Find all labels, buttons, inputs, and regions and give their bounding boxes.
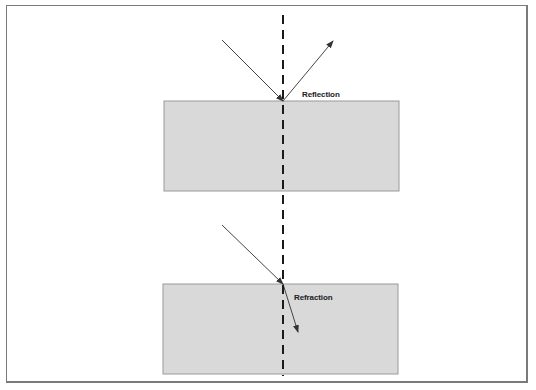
reflection-panel: Reflection (164, 40, 399, 191)
refraction-medium-block (163, 284, 398, 374)
refraction-label: Refraction (294, 293, 333, 302)
reflection-medium-block (164, 101, 399, 191)
reflection-refraction-diagram: Reflection Refraction (0, 0, 536, 390)
reflection-label: Reflection (302, 90, 340, 99)
refraction-incident-ray-arrow (222, 225, 283, 284)
refraction-panel: Refraction (163, 225, 398, 374)
reflection-incident-ray-arrow (222, 40, 283, 101)
